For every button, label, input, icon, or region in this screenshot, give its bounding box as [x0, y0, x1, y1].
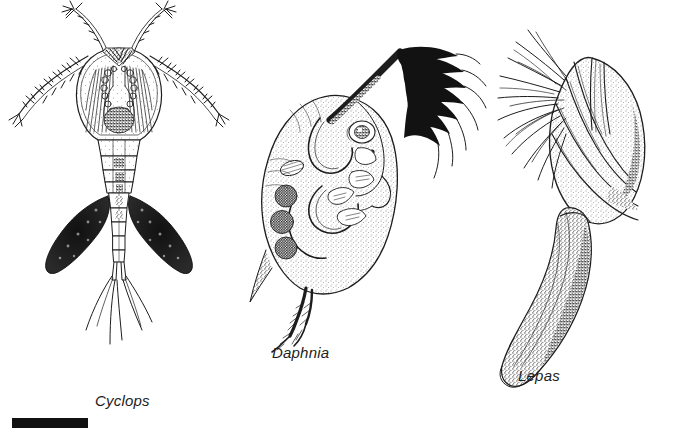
cyclops-antennule-right	[130, 1, 176, 52]
daphnia-post-abdomen	[272, 288, 312, 352]
cyclops-caudal-setae	[86, 262, 152, 344]
specimen-lepas	[498, 30, 645, 387]
specimen-cyclops	[9, 1, 229, 344]
specimen-drawings	[0, 0, 685, 430]
label-lepas: Lepas	[518, 367, 560, 384]
cyclops-abdomen	[109, 193, 129, 262]
cyclops-antennule-left	[62, 1, 108, 52]
daphnia-apical-spine	[250, 250, 272, 302]
cyclops-thorax	[98, 140, 140, 193]
scale-bar	[12, 418, 88, 428]
illustration-plate: Cyclops Daphnia Lepas	[0, 0, 685, 430]
label-daphnia: Daphnia	[272, 344, 329, 361]
specimen-daphnia	[250, 47, 486, 352]
cyclops-central-mass	[104, 107, 134, 133]
label-cyclops: Cyclops	[95, 392, 150, 409]
